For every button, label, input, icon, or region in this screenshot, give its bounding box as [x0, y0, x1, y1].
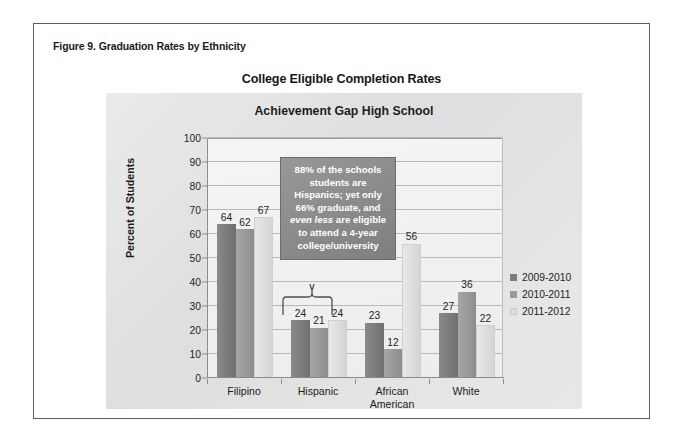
bar	[365, 323, 384, 378]
figure-caption: Figure 9. Graduation Rates by Ethnicity	[53, 40, 246, 52]
y-axis-tick-label: 100	[175, 133, 201, 144]
legend-item: 2011-2012	[510, 303, 571, 320]
bar	[217, 224, 236, 378]
figure-frame: Figure 9. Graduation Rates by Ethnicity …	[33, 23, 650, 419]
bar	[384, 349, 403, 378]
callout-line-4: 66% graduate, and	[296, 202, 381, 213]
legend-label: 2011-2012	[522, 306, 570, 317]
callout-line-1: 88% of the schools	[295, 164, 382, 175]
callout-line-3: Hispanics; yet only	[294, 189, 381, 200]
x-axis-category-label: White	[424, 385, 508, 398]
y-axis-tick-label: 10	[175, 349, 201, 360]
y-axis-tick-label: 50	[175, 253, 201, 264]
gridline	[208, 137, 502, 138]
bar	[328, 320, 347, 378]
callout-line-5-emphasis: even less	[290, 214, 333, 225]
bar	[310, 328, 329, 378]
callout-line-2: students are	[309, 177, 366, 188]
y-axis-tick-label: 0	[175, 373, 201, 384]
x-axis-category-label: Hispanic	[276, 385, 360, 398]
bar-value-label: 22	[472, 313, 499, 324]
callout-pointer-icon	[282, 284, 342, 316]
bar	[476, 325, 495, 378]
y-axis-tick-label: 70	[175, 205, 201, 216]
bar-value-label: 23	[361, 310, 388, 321]
y-axis-tick-label: 60	[175, 229, 201, 240]
chart-panel: Achievement Gap High School Percent of S…	[106, 93, 582, 409]
bar-value-label: 67	[250, 205, 277, 216]
bar	[402, 244, 421, 378]
bar-value-label: 36	[454, 279, 481, 290]
bar	[291, 320, 310, 378]
x-axis-tick-mark	[281, 379, 282, 384]
x-axis-category-label: Filipino	[202, 385, 286, 398]
chart-legend: 2009-20102010-20112011-2012	[510, 269, 571, 320]
callout-annotation: 88% of the schools students are Hispanic…	[280, 157, 396, 260]
legend-swatch-icon	[510, 308, 517, 315]
bar	[236, 229, 255, 378]
callout-line-7: college/university	[297, 240, 378, 251]
callout-line-5-rest: are eligible	[333, 214, 386, 225]
bar	[439, 313, 458, 378]
y-axis-tick-label: 20	[175, 325, 201, 336]
bar	[254, 217, 273, 378]
x-axis-category-label: AfricanAmerican	[350, 385, 434, 410]
callout-line-6: to attend a 4-year	[298, 227, 377, 238]
legend-label: 2009-2010	[522, 272, 571, 283]
y-axis-tick-label: 90	[175, 157, 201, 168]
x-axis-tick-mark	[503, 379, 504, 384]
x-axis-tick-mark	[207, 379, 208, 384]
x-axis-tick-mark	[429, 379, 430, 384]
x-axis-tick-mark	[355, 379, 356, 384]
chart-outer-title: College Eligible Completion Rates	[34, 72, 649, 86]
legend-swatch-icon	[510, 291, 517, 298]
y-axis-tick-label: 30	[175, 301, 201, 312]
legend-label: 2010-2011	[522, 289, 570, 300]
y-axis-tick-label: 40	[175, 277, 201, 288]
y-axis-title: Percent of Students	[124, 158, 136, 258]
y-axis-tick-label: 80	[175, 181, 201, 192]
bar	[458, 292, 477, 378]
x-axis-line	[207, 377, 504, 378]
legend-item: 2010-2011	[510, 286, 571, 303]
legend-item: 2009-2010	[510, 269, 571, 286]
bar-value-label: 56	[398, 231, 425, 242]
legend-swatch-icon	[510, 274, 517, 281]
page: Figure 9. Graduation Rates by Ethnicity …	[0, 0, 683, 448]
chart-inner-title: Achievement Gap High School	[106, 104, 582, 118]
